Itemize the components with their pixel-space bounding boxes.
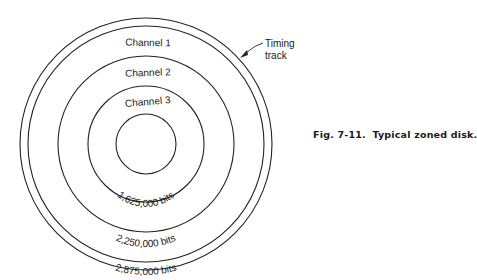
channel-3-bits-label: 1,625,000 bits	[116, 189, 176, 209]
timing-track-ring	[28, 26, 264, 262]
timing-track-label-line1: Timing	[265, 38, 295, 49]
channel-1-bits-label: 2,875,000 bits	[114, 262, 177, 277]
channel-1-label: Channel 1	[125, 37, 171, 49]
timing-track-leader	[240, 43, 263, 58]
arrowhead-icon	[240, 50, 248, 58]
hub-circle	[116, 114, 176, 174]
channel-2-label: Channel 2	[125, 66, 171, 79]
figure-number: Fig. 7-11.	[313, 129, 366, 140]
timing-track-label-line2: track	[265, 50, 288, 61]
figure-caption: Fig. 7-11. Typical zoned disk.	[313, 129, 477, 140]
channel-3-label: Channel 3	[125, 94, 172, 109]
channel-2-bits-label: 2,250,000 bits	[115, 232, 178, 249]
figure-title: Typical zoned disk.	[372, 129, 477, 140]
